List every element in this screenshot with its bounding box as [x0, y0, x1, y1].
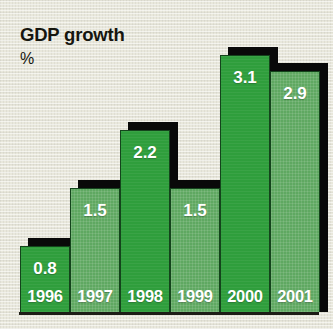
- axis-unit-label: %: [20, 51, 125, 67]
- bar-category-label-2001: 2001: [271, 287, 319, 306]
- bar-group-2000: 3.12000: [220, 55, 270, 312]
- bar-group-1998: 2.21998: [120, 130, 170, 312]
- bar-category-label-1998: 1998: [121, 287, 169, 306]
- bar-value-2000: 3.1: [221, 68, 269, 88]
- bar-2001[interactable]: 2.92001: [270, 71, 320, 312]
- gdp-growth-bar-chart: GDP growth % 0.819961.519972.219981.5199…: [0, 0, 333, 329]
- bar-group-1996: 0.81996: [20, 246, 70, 312]
- bar-category-label-1999: 1999: [171, 287, 219, 306]
- baseline-axis-rule: [19, 312, 319, 315]
- bar-value-1997: 1.5: [71, 201, 119, 221]
- bar-value-1998: 2.2: [121, 143, 169, 163]
- bar-group-1999: 1.51999: [170, 188, 220, 312]
- bar-category-label-1997: 1997: [71, 287, 119, 306]
- page-title: GDP growth: [20, 26, 125, 45]
- bar-1998[interactable]: 2.21998: [120, 130, 170, 312]
- bar-1996[interactable]: 0.81996: [20, 246, 70, 312]
- bar-category-label-2000: 2000: [221, 287, 269, 306]
- bar-1999[interactable]: 1.51999: [170, 188, 220, 312]
- bar-value-1999: 1.5: [171, 201, 219, 221]
- chart-header: GDP growth %: [20, 26, 125, 67]
- bar-2000[interactable]: 3.12000: [220, 55, 270, 312]
- bar-value-1996: 0.8: [21, 259, 69, 279]
- bar-category-label-1996: 1996: [21, 287, 69, 306]
- bar-group-1997: 1.51997: [70, 188, 120, 312]
- bar-group-2001: 2.92001: [270, 71, 320, 312]
- bar-1997[interactable]: 1.51997: [70, 188, 120, 312]
- bar-value-2001: 2.9: [271, 84, 319, 104]
